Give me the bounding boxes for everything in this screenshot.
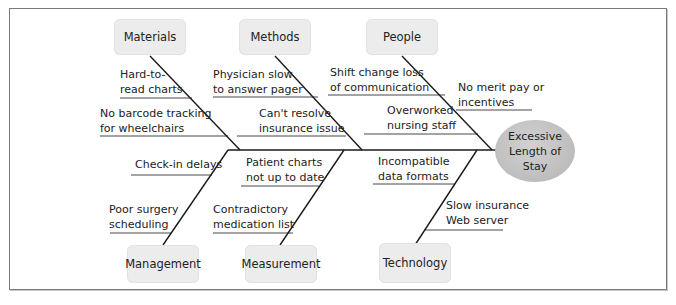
cause-line: No barcode tracking <box>100 106 212 121</box>
category-label: People <box>383 30 421 44</box>
cause-line: Shift change loss <box>330 65 429 80</box>
effect-line: Length of <box>508 144 562 159</box>
cause-line: not up to date <box>246 170 324 185</box>
cause-line: nursing staff <box>387 118 456 133</box>
cause-line: data formats <box>378 169 450 184</box>
cause-line: Incompatible <box>378 154 450 169</box>
cause-line: insurance issue <box>259 121 345 136</box>
cause-physician-slow: Physician slow to answer pager <box>213 67 303 97</box>
cause-line: Hard-to- <box>120 67 183 82</box>
cause-line: read charts <box>120 82 183 97</box>
cause-line: Web server <box>446 213 529 228</box>
cause-line: Check-in delays <box>135 157 222 172</box>
cause-line: Slow insurance <box>446 198 529 213</box>
cause-line: to answer pager <box>213 82 303 97</box>
category-people: People <box>366 19 438 55</box>
cause-poor-surgery-scheduling: Poor surgery scheduling <box>109 202 179 232</box>
cause-slow-insurance-server: Slow insurance Web server <box>446 198 529 228</box>
cause-line: Contradictory <box>213 202 294 217</box>
cause-line: Can't resolve <box>259 106 345 121</box>
category-label: Measurement <box>242 257 321 271</box>
cause-cant-resolve-insurance: Can't resolve insurance issue <box>259 106 345 136</box>
cause-overworked-nursing: Overworked nursing staff <box>387 103 456 133</box>
category-technology: Technology <box>379 243 451 283</box>
cause-shift-change: Shift change loss of communication <box>330 65 429 95</box>
cause-no-merit-pay: No merit pay or incentives <box>458 80 544 110</box>
cause-incompatible-data-formats: Incompatible data formats <box>378 154 450 184</box>
cause-hard-to-read-charts: Hard-to- read charts <box>120 67 183 97</box>
cause-line: Overworked <box>387 103 456 118</box>
category-measurement: Measurement <box>245 245 317 283</box>
cause-line: of communication <box>330 80 429 95</box>
category-label: Materials <box>124 30 177 44</box>
cause-line: for wheelchairs <box>100 121 212 136</box>
cause-line: Patient charts <box>246 155 324 170</box>
effect-ellipse: Excessive Length of Stay <box>495 120 575 182</box>
cause-no-barcode-tracking: No barcode tracking for wheelchairs <box>100 106 212 136</box>
category-label: Management <box>125 257 201 271</box>
category-management: Management <box>127 245 199 283</box>
cause-line: scheduling <box>109 217 179 232</box>
cause-line: incentives <box>458 95 544 110</box>
cause-line: Poor surgery <box>109 202 179 217</box>
cause-patient-charts: Patient charts not up to date <box>246 155 324 185</box>
cause-line: medication list <box>213 217 294 232</box>
category-label: Technology <box>383 256 447 270</box>
cause-line: No merit pay or <box>458 80 544 95</box>
category-materials: Materials <box>114 19 186 55</box>
effect-line: Stay <box>508 159 562 174</box>
effect-line: Excessive <box>508 129 562 144</box>
category-methods: Methods <box>239 19 311 55</box>
cause-line: Physician slow <box>213 67 303 82</box>
category-label: Methods <box>250 30 299 44</box>
cause-contradictory-medication: Contradictory medication list <box>213 202 294 232</box>
cause-check-in-delays: Check-in delays <box>135 157 222 172</box>
